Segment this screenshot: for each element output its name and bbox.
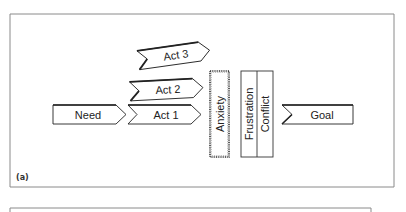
conflict-label: Conflict bbox=[259, 96, 271, 133]
act2-arrow: Act 2 bbox=[130, 78, 204, 101]
act1-arrow: Act 1 bbox=[128, 105, 201, 124]
act3-arrow: Act 3 bbox=[137, 41, 211, 70]
need-label: Need bbox=[75, 109, 101, 121]
goal-label: Goal bbox=[310, 109, 333, 121]
panel-a-frame bbox=[10, 14, 394, 187]
need-arrow: Need bbox=[53, 105, 126, 124]
anxiety-box: Anxiety bbox=[210, 71, 229, 157]
frustration-label: Frustration bbox=[243, 88, 255, 141]
act1-label: Act 1 bbox=[153, 109, 178, 121]
panel-b-frame bbox=[10, 208, 371, 212]
panel-label: (a) bbox=[16, 173, 29, 182]
goal-box: Goal bbox=[282, 105, 353, 124]
anxiety-label: Anxiety bbox=[214, 95, 226, 132]
frustration-conflict-barrier: Frustration Conflict bbox=[241, 71, 273, 157]
motivation-diagram: Need Act 1 Act 2 Act 3 Anxiety Frustrati… bbox=[0, 0, 406, 212]
act2-label: Act 2 bbox=[155, 83, 181, 96]
